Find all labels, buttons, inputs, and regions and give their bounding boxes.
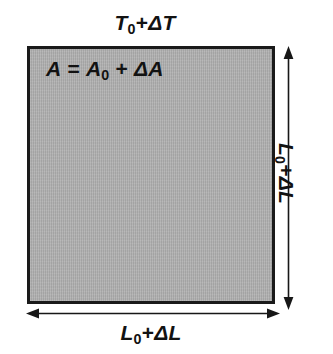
area-label: A = A0 + ΔA: [46, 58, 164, 79]
length-right-symbol: L: [275, 143, 298, 156]
area-equals-sign: =: [67, 57, 79, 80]
height-arrow-head-bottom: [284, 297, 294, 310]
temperature-delta-term: ΔT: [148, 11, 175, 34]
length-bottom-symbol: L: [121, 321, 134, 344]
length-right-subscript: 0: [272, 156, 288, 164]
length-right-delta-term: ΔL: [275, 177, 298, 204]
thermal-expansion-figure: T0+ΔT A = A0 + ΔA L0+ΔL L0+ΔL: [0, 0, 333, 354]
temperature-label: T0+ΔT: [0, 12, 290, 33]
temperature-subscript: 0: [128, 21, 136, 37]
width-arrow-head-left: [26, 309, 39, 319]
height-arrow-head-top: [284, 46, 294, 59]
expanded-plate: [27, 46, 275, 304]
length-right-operator: +: [275, 164, 298, 176]
area-symbol: A: [86, 57, 101, 80]
length-bottom-label: L0+ΔL: [27, 322, 275, 343]
length-bottom-delta-term: ΔL: [154, 321, 181, 344]
length-bottom-subscript: 0: [134, 331, 142, 347]
temperature-operator: +: [136, 11, 148, 34]
area-delta-term: ΔA: [134, 57, 164, 80]
area-subscript: 0: [101, 67, 109, 83]
length-bottom-operator: +: [142, 321, 154, 344]
length-right-label: L0+ΔL: [276, 143, 297, 204]
temperature-symbol: T: [115, 11, 128, 34]
area-lhs-symbol: A: [46, 57, 61, 80]
area-operator: +: [116, 57, 128, 80]
